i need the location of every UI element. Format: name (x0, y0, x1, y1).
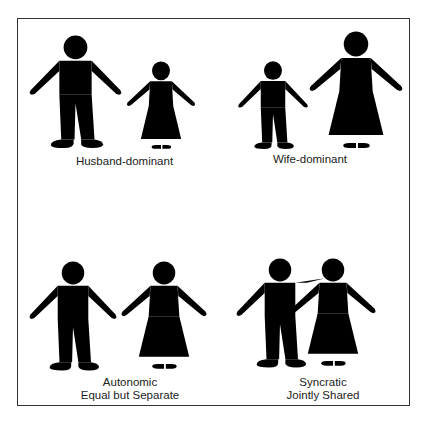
label-wife-dominant: Wife-dominant (255, 153, 365, 166)
couple-figures (0, 0, 428, 423)
label-syncratic: Syncratic Jointly Shared (268, 376, 378, 402)
panel-syncratic-figures (237, 258, 376, 367)
panel-husband-dominant-figures (30, 35, 195, 148)
woman-medium-figure (121, 261, 206, 368)
label-autonomic: Autonomic Equal but Separate (65, 376, 195, 402)
woman-small-figure (127, 61, 195, 148)
label-line: Wife-dominant (255, 153, 365, 166)
label-line-2: Equal but Separate (65, 389, 195, 402)
label-line-1: Syncratic (268, 376, 378, 389)
label-line: Husband-dominant (62, 155, 187, 168)
label-line-1: Autonomic (65, 376, 195, 389)
woman-large-figure (310, 32, 403, 149)
man-medium-figure (30, 261, 117, 370)
label-line-2: Jointly Shared (268, 389, 378, 402)
woman-medium-figure-2 (290, 258, 375, 365)
label-husband-dominant: Husband-dominant (62, 155, 187, 168)
panel-wife-dominant-figures (238, 32, 402, 150)
man-small-figure (238, 61, 308, 149)
man-large-figure (30, 35, 122, 148)
panel-autonomic-figures (30, 261, 207, 370)
